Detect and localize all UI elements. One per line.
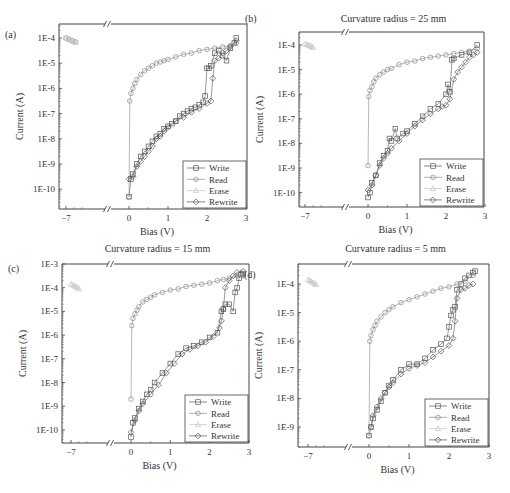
series-rewrite <box>126 38 239 182</box>
legend-label-rewrite: Rewrite <box>211 431 240 441</box>
x-tick-label: 2 <box>205 213 210 223</box>
y-tick-label: 1E-9 <box>38 159 56 169</box>
panel-title: Curvature radius = 25 mm <box>341 13 447 24</box>
x-tick-label: 0 <box>366 211 371 221</box>
legend-label-read: Read <box>446 173 465 183</box>
x-axis-label: Bias (V) <box>378 224 412 236</box>
y-tick-label: 1E-7 <box>278 114 296 124</box>
legend-label-write: Write <box>211 397 231 407</box>
axis-break-mark <box>108 206 111 212</box>
x-tick-label: 1 <box>168 447 173 457</box>
panel-b: 1E-41E-51E-61E-71E-81E-91E-10−70123Bias … <box>245 13 488 236</box>
axis-break-mark <box>349 444 352 450</box>
y-tick-label: 1E-4 <box>38 33 56 43</box>
panel-a: 1E-41E-51E-61E-71E-81E-91E-10−70123Bias … <box>5 21 249 238</box>
figure: 1E-41E-51E-61E-71E-81E-91E-10−70123Bias … <box>0 0 510 493</box>
y-tick-label: 1E-10 <box>273 188 295 198</box>
legend-label-rewrite: Rewrite <box>209 197 238 207</box>
panel-label: (d) <box>244 269 256 281</box>
series-erase <box>302 41 315 49</box>
y-tick-label: 1E-4 <box>41 283 59 293</box>
x-axis-label: Bias (V) <box>142 460 176 472</box>
y-tick-label: 1E-6 <box>38 83 56 93</box>
legend-label-read: Read <box>211 409 230 419</box>
x-tick-label: −7 <box>300 211 310 221</box>
y-tick-label: 1E-9 <box>278 163 296 173</box>
y-axis-label: Current (A) <box>14 93 26 140</box>
axis-break-mark <box>346 29 349 35</box>
legend: WriteReadEraseRewrite <box>420 159 483 206</box>
y-tick-label: 1E-4 <box>277 279 295 289</box>
y-tick-label: 1E-7 <box>41 354 59 364</box>
x-tick-label: 2 <box>444 211 449 221</box>
x-axis-label: Bias (V) <box>380 464 414 476</box>
y-axis-label: Current (A) <box>254 96 266 143</box>
legend-label-erase: Erase <box>211 420 231 430</box>
panel-d: 1E-41E-51E-61E-71E-81E-9−70123Bias (V)Cu… <box>244 243 492 476</box>
x-tick-label: 1 <box>405 211 410 221</box>
y-tick-label: 1E-5 <box>41 306 59 316</box>
legend-label-write: Write <box>451 401 471 411</box>
panel-label: (a) <box>5 29 16 41</box>
y-tick-label: 1E-10 <box>36 425 58 435</box>
x-tick-label: 0 <box>127 213 132 223</box>
panel-c: 1E-31E-41E-51E-61E-71E-81E-91E-10−70123B… <box>8 243 252 472</box>
axis-break-mark <box>349 261 352 267</box>
x-tick-label: 1 <box>166 213 171 223</box>
y-tick-label: 1E-8 <box>38 134 56 144</box>
y-axis-label: Current (A) <box>17 330 29 377</box>
axis-break-mark <box>108 21 111 27</box>
y-tick-label: 1E-7 <box>38 109 56 119</box>
x-tick-label: 3 <box>483 211 488 221</box>
y-tick-label: 1E-8 <box>278 138 296 148</box>
y-tick-label: 1E-5 <box>277 308 295 318</box>
series-line <box>368 49 477 166</box>
panel-label: (b) <box>245 13 257 25</box>
series-line <box>131 276 243 399</box>
series-erase <box>68 281 81 291</box>
x-tick-label: 2 <box>207 447 212 457</box>
x-tick-label: 3 <box>244 213 249 223</box>
legend: WriteReadEraseRewrite <box>185 395 248 442</box>
legend-label-read: Read <box>451 413 470 423</box>
y-tick-label: 1E-9 <box>277 422 295 432</box>
panel-title: Curvature radius = 15 mm <box>105 243 211 254</box>
legend-label-write: Write <box>209 163 229 173</box>
axis-break-mark <box>111 261 114 267</box>
x-tick-label: 1 <box>407 451 412 461</box>
axis-break-mark <box>346 204 349 210</box>
legend-label-erase: Erase <box>451 424 471 434</box>
y-tick-label: 1E-10 <box>33 184 55 194</box>
x-tick-label: 3 <box>247 447 252 457</box>
y-tick-label: 1E-6 <box>278 89 296 99</box>
x-axis-label: Bias (V) <box>140 226 174 238</box>
legend: WriteReadEraseRewrite <box>425 399 488 446</box>
series-read <box>129 274 246 402</box>
legend-label-rewrite: Rewrite <box>446 195 475 205</box>
y-tick-label: 1E-7 <box>277 365 295 375</box>
y-tick-label: 1E-6 <box>41 330 59 340</box>
y-tick-label: 1E-5 <box>38 58 56 68</box>
y-tick-label: 1E-6 <box>277 336 295 346</box>
legend-label-read: Read <box>209 175 228 185</box>
panel-label: (c) <box>8 263 19 275</box>
write-marker <box>366 195 371 200</box>
x-tick-label: −7 <box>61 213 71 223</box>
x-tick-label: 2 <box>447 451 452 461</box>
series-erase <box>63 35 78 44</box>
x-tick-label: 0 <box>367 451 372 461</box>
y-tick-label: 1E-9 <box>41 401 59 411</box>
series-line <box>129 41 236 180</box>
x-tick-label: 0 <box>129 447 134 457</box>
y-tick-label: 1E-4 <box>278 40 296 50</box>
y-tick-label: 1E-5 <box>278 65 296 75</box>
panel-title: Curvature radius = 5 mm <box>345 243 446 254</box>
y-tick-label: 1E-8 <box>277 393 295 403</box>
legend-label-erase: Erase <box>209 186 229 196</box>
axis-break-mark <box>111 440 114 446</box>
y-axis-label: Current (A) <box>253 332 265 379</box>
series-erase <box>305 277 318 287</box>
x-tick-label: −7 <box>66 447 76 457</box>
legend: WriteReadEraseRewrite <box>183 161 246 208</box>
legend-label-erase: Erase <box>446 184 466 194</box>
